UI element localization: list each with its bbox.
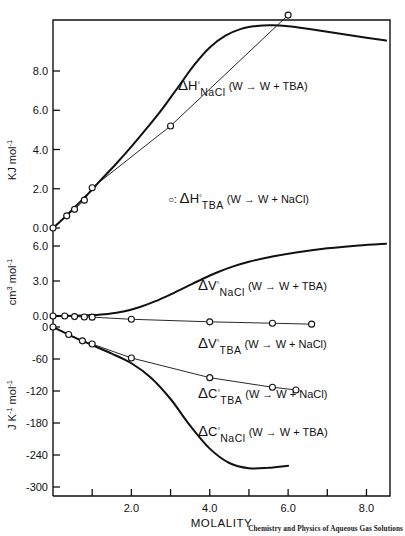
dh-tba-marker: [81, 197, 87, 203]
dh-tba-marker: [168, 123, 174, 129]
x-tick-label: 6.0: [280, 502, 295, 514]
y-top-tick-label: 8.0: [33, 65, 48, 77]
figure-root: 2.04.06.08.0MOLALITY8.06.04.02.00.0KJ mo…: [0, 0, 405, 536]
x-tick-label: 4.0: [202, 502, 217, 514]
dv-tba-marker: [50, 313, 56, 319]
y-mid-tick-label: 6.0: [33, 240, 48, 252]
y-top-tick-label: 0.0: [33, 222, 48, 234]
dv-nacl-line: [53, 244, 386, 316]
dv-tba-marker: [269, 320, 275, 326]
dv-tba-marker: [62, 313, 68, 319]
y-mid-axis-title: cm3 mol-1: [5, 259, 19, 305]
x-axis-title: MOLALITY: [191, 517, 253, 529]
y-top-tick-label: 4.0: [33, 144, 48, 156]
label-dv-nacl-text: ΔV°NaCl (W → W + TBA): [198, 276, 327, 298]
dv-tba-marker: [89, 314, 95, 320]
dv-tba-marker: [128, 316, 134, 322]
y-bottom-tick-label: -120: [26, 385, 48, 397]
y-bottom-tick-label: -60: [32, 353, 48, 365]
dv-tba-marker: [81, 314, 87, 320]
y-mid-tick-label: 3.0: [33, 275, 48, 287]
y-top-tick-label: 2.0: [33, 183, 48, 195]
y-top-tick-label: 6.0: [33, 104, 48, 116]
figure-credit: Chemistry and Physics of Aqueous Gas Sol…: [248, 525, 403, 533]
y-bottom-axis-title: J K-1 mol-1: [5, 380, 19, 430]
dc-tba-line: [53, 327, 296, 390]
dh-tba-marker: [285, 12, 291, 18]
label-dc-tba-text: ΔC°TBA (W → W + NaCl): [198, 384, 327, 406]
x-tick-label: 8.0: [359, 502, 374, 514]
dv-tba-marker: [207, 319, 213, 325]
label-dh-tba: ○: ΔH°TBA (W → W + NaCl): [168, 189, 309, 211]
label-dc-tba: ΔC°TBA (W → W + NaCl): [198, 384, 327, 406]
y-bottom-tick-label: 0: [42, 321, 48, 333]
dc-tba-marker: [128, 355, 134, 361]
dh-tba-marker: [72, 206, 78, 212]
dc-tba-marker: [50, 324, 56, 330]
dc-tba-marker: [66, 331, 72, 337]
y-bottom-tick-label: -180: [26, 417, 48, 429]
dv-tba-marker: [72, 314, 78, 320]
dh-tba-marker: [89, 185, 95, 191]
y-bottom-tick-label: -300: [26, 481, 48, 493]
dc-tba-marker: [79, 338, 85, 344]
dh-nacl-line: [53, 25, 386, 228]
y-top-axis-title: KJ mol-1: [5, 140, 19, 180]
dv-tba-marker: [309, 321, 315, 327]
label-dh-tba-text: ○: ΔH°TBA (W → W + NaCl): [168, 189, 309, 211]
label-dv-nacl: ΔV°NaCl (W → W + TBA): [198, 276, 327, 298]
label-dv-tba-text: ΔV°TBA (W → W + NaCl): [198, 334, 327, 356]
label-dh-nacl-text: ΔH°NaCl (W → W + TBA): [178, 76, 308, 98]
y-bottom-tick-label: -240: [26, 449, 48, 461]
label-dc-nacl: ΔC°NaCl (W → W + TBA): [198, 422, 328, 444]
label-dc-nacl-text: ΔC°NaCl (W → W + TBA): [198, 422, 328, 444]
label-dv-tba: ΔV°TBA (W → W + NaCl): [198, 334, 327, 356]
dh-tba-marker: [50, 225, 56, 231]
dc-tba-marker: [89, 341, 95, 347]
dc-tba-marker: [207, 375, 213, 381]
scientific-plot: 2.04.06.08.0MOLALITY8.06.04.02.00.0KJ mo…: [0, 0, 405, 536]
dh-tba-marker: [64, 213, 70, 219]
x-tick-label: 2.0: [124, 502, 139, 514]
label-dh-nacl: ΔH°NaCl (W → W + TBA): [178, 76, 308, 98]
